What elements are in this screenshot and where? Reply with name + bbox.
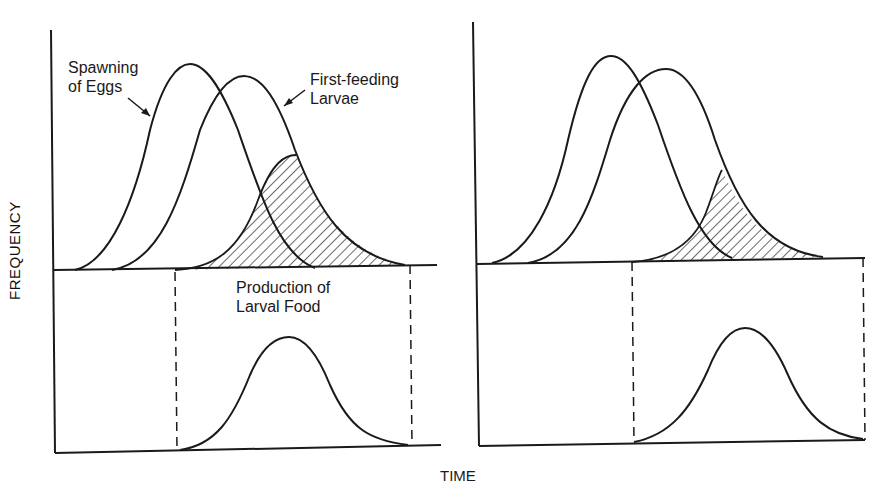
right-shaded-overlap	[632, 170, 823, 262]
larvae-label: First-feeding Larvae	[310, 70, 399, 108]
right-food-curve	[634, 328, 863, 442]
left-food-window-end	[410, 265, 412, 445]
spawning-label: Spawning of Eggs	[68, 58, 138, 96]
right-y-axis	[473, 22, 479, 446]
right-food-window-end	[863, 258, 865, 440]
right-larvae-curve	[528, 69, 823, 263]
left-y-axis	[51, 30, 55, 453]
x-axis-label: TIME	[440, 466, 476, 485]
y-axis-label: FREQUENCY	[6, 201, 23, 300]
left-bottom-baseline	[55, 445, 441, 453]
larval-food-label: Production of Larval Food	[236, 278, 330, 316]
right-food-window-start	[632, 262, 634, 442]
left-food-curve	[180, 337, 408, 450]
left-food-window-start	[175, 272, 177, 450]
right-bottom-baseline	[479, 440, 865, 446]
